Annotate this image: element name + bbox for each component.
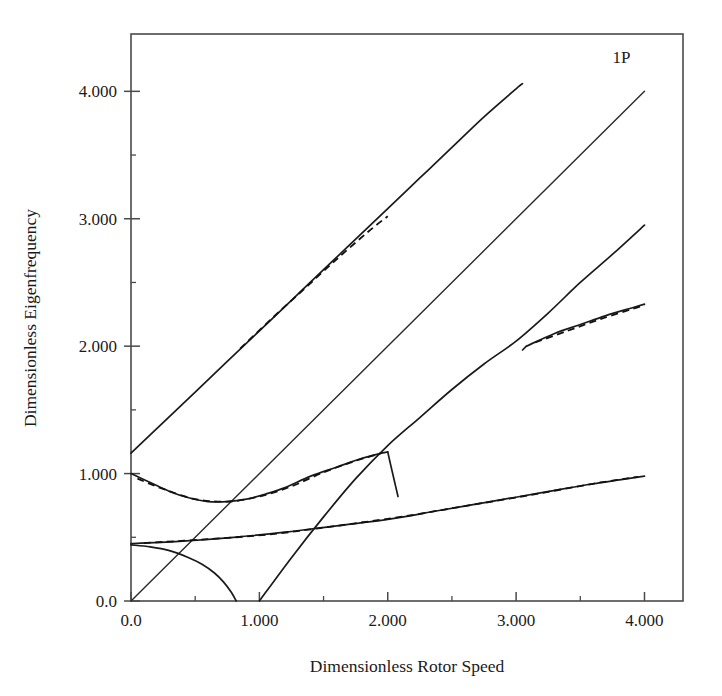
data-series-1p-excitation-line (131, 91, 644, 601)
y-tick-label: 2.000 (79, 337, 117, 356)
x-tick-label: 3.000 (497, 611, 535, 630)
chart-annotations: 1P (612, 48, 630, 67)
x-tick-label: 4.000 (625, 611, 663, 630)
x-axis-tick-labels: 0.01.0002.0003.0004.000 (120, 611, 663, 630)
x-tick-label: 2.000 (369, 611, 407, 630)
annotation-label: 1P (612, 48, 630, 67)
y-tick-label: 0.0 (96, 592, 117, 611)
y-tick-label: 4.000 (79, 82, 117, 101)
y-axis-title: Dimensionless Eigenfrequency (20, 209, 40, 427)
data-series-first-lag-regressive-dip-branch (131, 452, 388, 502)
data-series-torsion-regressive-to-zero (131, 545, 236, 601)
x-axis-ticks (131, 592, 644, 601)
data-series-first-lag-progressive-shallow (131, 476, 644, 544)
data-series-first-lag-regressive-dashed-overlay (137, 453, 381, 502)
campbell-diagram-figure: 0.01.0002.0003.0004.000 0.01.0002.0003.0… (0, 0, 722, 696)
data-series-branch-segment-below-bifurcation (523, 346, 527, 350)
x-tick-label: 0.0 (120, 611, 141, 630)
x-axis-title: Dimensionless Rotor Speed (310, 656, 505, 676)
data-curves (131, 84, 644, 601)
x-tick-label: 1.000 (240, 611, 278, 630)
y-axis-tick-labels: 0.01.0002.0003.0004.000 (79, 82, 117, 611)
data-series-descent-from-peak-to-branch (388, 452, 398, 497)
chart-canvas: 0.01.0002.0003.0004.000 0.01.0002.0003.0… (0, 0, 722, 696)
data-series-branch-upper-arm-dashed-overlay (535, 305, 644, 342)
data-series-first-lag-progressive-dashed-overlay (144, 477, 638, 543)
y-tick-label: 3.000 (79, 210, 117, 229)
y-axis-ticks (124, 91, 140, 601)
y-tick-label: 1.000 (79, 465, 117, 484)
